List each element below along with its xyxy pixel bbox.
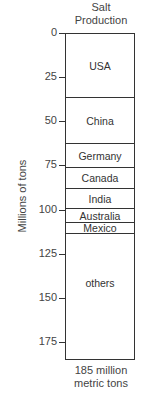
y-tick-label-0: 0 [17,26,57,38]
total-label-line1: 185 million [60,364,142,377]
total-label-line2: metric tons [60,377,142,390]
y-tick-label-25: 25 [17,70,57,82]
segment-china: China [66,98,134,144]
segment-australia: Australia [66,209,134,223]
segment-label: Australia [80,210,121,222]
y-tick-label-75: 75 [17,158,57,170]
segment-mexico: Mexico [66,223,134,234]
y-tick-label-175: 175 [17,335,57,347]
chart-title-line1: Salt [60,1,142,14]
segment-label: Canada [82,172,119,184]
y-tick-label-150: 150 [17,291,57,303]
segment-others: others [66,234,134,359]
y-tick-label-100: 100 [17,203,57,215]
chart-title: Salt Production [60,1,142,27]
segment-usa: USA [66,34,134,98]
segment-label: others [85,277,114,289]
segment-label: India [89,193,112,205]
segment-germany: Germany [66,144,134,168]
segment-label: Mexico [83,222,116,234]
segment-label: China [86,115,113,127]
total-label: 185 million metric tons [60,364,142,390]
segment-canada: Canada [66,168,134,189]
y-tick-label-50: 50 [17,114,57,126]
segment-label: Germany [78,150,121,162]
chart-title-line2: Production [60,14,142,27]
stacked-bar: USA China Germany Canada India Australia… [65,33,135,360]
segment-label: USA [89,60,111,72]
y-tick-label-125: 125 [17,247,57,259]
segment-india: India [66,189,134,209]
